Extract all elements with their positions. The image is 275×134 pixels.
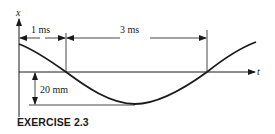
y-axis-label: x [15, 7, 21, 18]
oscillation-diagram: x t 1 ms 3 ms 20 mm [0, 0, 275, 134]
dimension-1ms-label: 1 ms [31, 24, 50, 35]
t-axis-label: t [257, 66, 260, 77]
dimension-3ms-label: 3 ms [120, 24, 139, 35]
figure-caption: EXERCISE 2.3 [17, 116, 89, 128]
amplitude-label: 20 mm [40, 84, 68, 95]
